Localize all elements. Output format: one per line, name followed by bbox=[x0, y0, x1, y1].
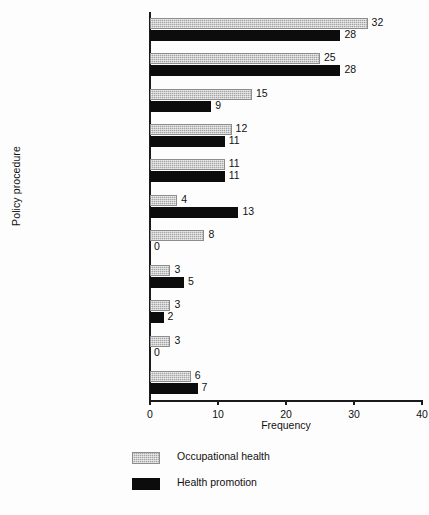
bar-oh-1 bbox=[150, 53, 320, 64]
bar-value-label-oh-7: 3 bbox=[174, 263, 180, 275]
bar-value-label-oh-0: 32 bbox=[372, 16, 384, 28]
bar-value-label-oh-3: 12 bbox=[236, 122, 248, 134]
bar-value-label-hp-6: 0 bbox=[154, 240, 160, 252]
bar-value-label-oh-2: 15 bbox=[256, 87, 268, 99]
legend-item-oh: Occupational health bbox=[132, 449, 372, 475]
bar-oh-7 bbox=[150, 265, 170, 276]
bar-value-label-hp-3: 11 bbox=[229, 134, 240, 146]
bar-value-label-hp-7: 5 bbox=[188, 275, 194, 287]
bar-hp-2 bbox=[150, 101, 211, 112]
bar-value-label-hp-0: 28 bbox=[344, 28, 356, 40]
bar-value-label-oh-1: 25 bbox=[324, 51, 336, 63]
bar-value-label-hp-8: 2 bbox=[168, 310, 174, 322]
x-tick-20 bbox=[285, 400, 286, 405]
x-tick-0 bbox=[149, 400, 150, 405]
bar-value-label-hp-4: 11 bbox=[229, 169, 240, 181]
legend-label-hp: Health promotion bbox=[177, 476, 257, 488]
bar-oh-10 bbox=[150, 371, 191, 382]
bar-value-label-oh-8: 3 bbox=[174, 298, 180, 310]
bar-oh-2 bbox=[150, 89, 252, 100]
bar-oh-0 bbox=[150, 18, 368, 29]
plot-area: 010203040 322825281591211111141380353230… bbox=[150, 12, 422, 400]
bar-hp-5 bbox=[150, 207, 238, 218]
y-axis-title: Policy procedure bbox=[10, 126, 22, 246]
bar-hp-7 bbox=[150, 277, 184, 288]
bar-hp-1 bbox=[150, 65, 340, 76]
legend-item-hp: Health promotion bbox=[132, 475, 372, 501]
bar-value-label-hp-1: 28 bbox=[344, 63, 356, 75]
bar-chart-figure: Policy procedure 010203040 3228252815912… bbox=[0, 0, 429, 515]
bar-value-label-oh-10: 6 bbox=[195, 369, 201, 381]
bar-hp-10 bbox=[150, 383, 198, 394]
legend-swatch-hp bbox=[132, 478, 160, 490]
x-tick-40 bbox=[421, 400, 422, 405]
bar-value-label-oh-6: 8 bbox=[208, 228, 214, 240]
bar-hp-8 bbox=[150, 312, 164, 323]
legend-swatch-oh bbox=[132, 452, 160, 464]
x-tick-10 bbox=[217, 400, 218, 405]
bar-value-label-oh-5: 4 bbox=[181, 193, 187, 205]
x-axis-title: Frequency bbox=[150, 419, 422, 431]
bar-hp-0 bbox=[150, 30, 340, 41]
bar-oh-3 bbox=[150, 124, 232, 135]
legend-label-oh: Occupational health bbox=[177, 450, 270, 462]
bar-value-label-oh-4: 11 bbox=[229, 157, 240, 169]
bar-hp-4 bbox=[150, 171, 225, 182]
bar-value-label-hp-5: 13 bbox=[242, 205, 254, 217]
bar-value-label-hp-10: 7 bbox=[202, 381, 208, 393]
x-tick-30 bbox=[353, 400, 354, 405]
bar-oh-4 bbox=[150, 159, 225, 170]
bar-hp-3 bbox=[150, 136, 225, 147]
chart-legend: Occupational healthHealth promotion bbox=[132, 449, 372, 501]
bar-value-label-oh-9: 3 bbox=[174, 334, 180, 346]
bar-value-label-hp-9: 0 bbox=[154, 346, 160, 358]
bar-oh-5 bbox=[150, 195, 177, 206]
bar-value-label-hp-2: 9 bbox=[215, 99, 221, 111]
